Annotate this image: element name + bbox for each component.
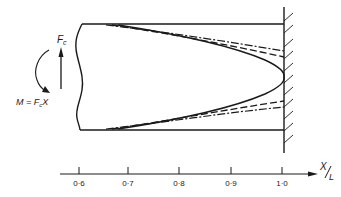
cantilever-diagram: Fc M = FcX 0·6 0·7 0·8 0·9 1·0 X L: [0, 0, 341, 197]
moment-arc: [36, 50, 49, 91]
svg-text:X: X: [319, 161, 327, 172]
beam-break-line: [76, 24, 83, 130]
tick-label-0.7: 0·7: [122, 179, 134, 188]
curve-dashed: [112, 25, 284, 57]
force-label: Fc: [57, 34, 67, 46]
x-axis-arrowhead: [308, 172, 318, 177]
tick-label-0.6: 0·6: [73, 179, 85, 188]
force-arrowhead: [59, 47, 64, 57]
svg-text:L: L: [329, 172, 334, 182]
tick-label-0.9: 0·9: [225, 179, 237, 188]
x-axis-label: X L: [319, 161, 334, 182]
moment-label: M = FcX: [16, 97, 49, 108]
x-axis-tick-labels: 0·6 0·7 0·8 0·9 1·0: [73, 179, 288, 188]
tick-label-1.0: 1·0: [276, 179, 288, 188]
curve-dash-dot: [106, 25, 284, 51]
x-axis-ticks: [79, 167, 282, 174]
wall-hatching: [284, 13, 293, 143]
tick-label-0.8: 0·8: [173, 179, 185, 188]
